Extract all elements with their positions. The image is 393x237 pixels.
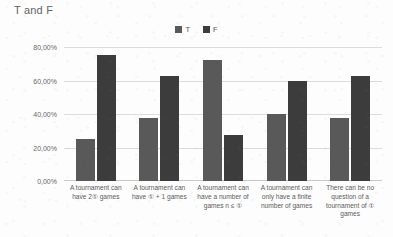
y-axis-tick-label: 40,00% <box>33 111 57 118</box>
bar-t[interactable] <box>203 60 222 181</box>
bar-group <box>191 47 255 181</box>
x-axis-category-label: There can be no question of a tournament… <box>318 184 382 219</box>
legend-swatch-f <box>203 26 210 33</box>
bar-group <box>255 47 319 181</box>
chart-legend: T F <box>0 26 393 34</box>
bar-group <box>64 47 128 181</box>
y-axis-tick-label: 60,00% <box>33 77 57 84</box>
bar-group <box>128 47 192 181</box>
x-axis-category-label: A tournament can have a number of games … <box>191 184 255 219</box>
bar-f[interactable] <box>288 81 307 182</box>
x-axis-category-label: A tournament can only have a finite numb… <box>255 184 319 219</box>
bar-groups <box>64 47 382 181</box>
plot-area <box>64 47 382 181</box>
bar-f[interactable] <box>351 76 370 181</box>
legend-item-t[interactable]: T <box>175 26 190 34</box>
legend-item-f[interactable]: F <box>203 26 218 34</box>
legend-swatch-t <box>175 26 182 33</box>
legend-label-t: T <box>185 26 190 34</box>
bar-f[interactable] <box>224 135 243 181</box>
y-axis-tick-label: 80,00% <box>33 44 57 51</box>
x-axis-category-label: A tournament can have 2① games <box>64 184 128 219</box>
bar-chart: T and F T F 0,00%20,00%40,00%60,00%80,00… <box>0 0 393 237</box>
bar-f[interactable] <box>97 55 116 181</box>
chart-title: T and F <box>14 4 53 16</box>
bar-t[interactable] <box>76 139 95 181</box>
y-axis-tick-label: 20,00% <box>33 144 57 151</box>
x-axis: A tournament can have 2① gamesA tourname… <box>64 184 382 219</box>
y-axis: 0,00%20,00%40,00%60,00%80,00% <box>0 47 62 181</box>
x-axis-category-label: A tournament can have ① + 1 games <box>128 184 192 219</box>
bar-t[interactable] <box>267 114 286 181</box>
bar-group <box>318 47 382 181</box>
legend-label-f: F <box>213 26 218 34</box>
bar-t[interactable] <box>139 118 158 181</box>
y-axis-tick-label: 0,00% <box>37 178 57 185</box>
bar-t[interactable] <box>330 118 349 181</box>
bar-f[interactable] <box>160 76 179 181</box>
